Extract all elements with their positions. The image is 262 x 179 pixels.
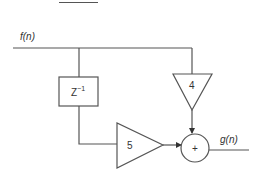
input-label: f(n) [20, 31, 35, 42]
gain-top-label: 4 [189, 80, 195, 91]
block-diagram: f(n) Z−1 4 5 + g(n) [0, 0, 262, 179]
output-label: g(n) [220, 134, 238, 145]
delay-to-gain-bottom [79, 106, 117, 144]
gain-bottom-triangle [117, 123, 163, 168]
summer-plus-label: + [192, 143, 198, 154]
gain-bottom-label: 5 [127, 140, 133, 151]
